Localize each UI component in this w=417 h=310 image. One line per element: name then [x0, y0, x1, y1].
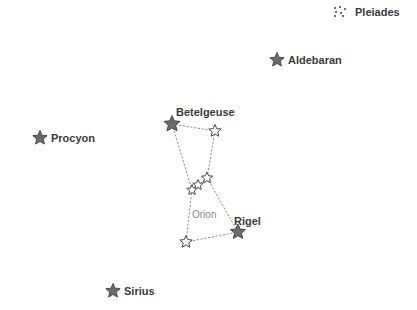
cluster-dot [334, 15, 336, 17]
cluster-dot [340, 12, 342, 14]
cluster-dot [334, 7, 336, 9]
star-marker-bellatrix [209, 125, 221, 137]
cluster-dot [342, 15, 344, 17]
star-marker-saiph [180, 236, 192, 248]
cluster-dot [339, 6, 341, 8]
star-marker-alnitak [201, 172, 212, 183]
constellation-line [207, 131, 215, 178]
star-label-procyon: Procyon [51, 133, 95, 144]
star-label-betelgeuse: Betelgeuse [176, 107, 235, 118]
constellation-lines [172, 124, 238, 242]
constellation-line [172, 124, 215, 131]
star-chart: Pleiades Aldebaran Procyon Betelgeuse Ri… [0, 0, 417, 310]
star-label-rigel: Rigel [234, 216, 261, 227]
star-cluster-pleiades [334, 6, 346, 17]
star-label-sirius: Sirius [124, 286, 155, 297]
constellation-line [186, 232, 238, 242]
star-markers [33, 6, 346, 297]
star-marker-aldebaran [270, 53, 284, 67]
constellation-label-orion: Orion [192, 210, 216, 220]
star-marker-procyon [33, 131, 47, 145]
cluster-dot [335, 11, 337, 13]
star-label-pleiades: Pleiades [355, 7, 400, 18]
star-marker-sirius [106, 284, 120, 298]
cluster-dot [344, 8, 346, 10]
constellation-line [172, 124, 192, 190]
sky-canvas [0, 0, 417, 310]
star-label-aldebaran: Aldebaran [288, 55, 342, 66]
